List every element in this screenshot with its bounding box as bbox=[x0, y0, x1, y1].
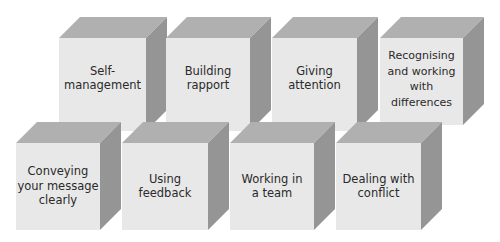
cube-label: Building rapport bbox=[166, 38, 250, 118]
cube-label: Conveying your message clearly bbox=[14, 150, 102, 222]
cube-label: Using feedback bbox=[122, 150, 208, 222]
cube-label: Self- management bbox=[59, 38, 146, 118]
cube-label: Working in a team bbox=[230, 150, 314, 222]
cube-label: Giving attention bbox=[272, 38, 357, 118]
cube-label: Dealing with conflict bbox=[336, 150, 421, 222]
cube-label: Recognising and working with differences bbox=[378, 44, 465, 114]
